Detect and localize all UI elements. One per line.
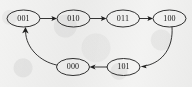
edge-100-to-101 — [147, 27, 173, 65]
node-100-label: 100 — [163, 14, 176, 23]
node-001: 001 — [7, 10, 40, 27]
diagram-canvas: 001 010 011 100 000 101 — [0, 0, 192, 87]
node-101: 101 — [107, 59, 140, 76]
node-000: 000 — [57, 59, 90, 76]
node-010-label: 010 — [67, 14, 80, 23]
node-000-label: 000 — [67, 62, 80, 71]
node-101-label: 101 — [117, 62, 130, 71]
edge-000-to-001 — [26, 32, 57, 65]
node-011: 011 — [107, 10, 140, 27]
node-group: 001 010 011 100 000 101 — [7, 10, 186, 76]
node-011-label: 011 — [117, 14, 129, 23]
arrowhead-100-to-101 — [141, 65, 148, 69]
edge-group — [22, 16, 172, 70]
node-100: 100 — [153, 10, 186, 27]
node-010: 010 — [57, 10, 90, 27]
node-001-label: 001 — [17, 14, 30, 23]
state-transition-diagram: 001 010 011 100 000 101 — [0, 0, 192, 87]
